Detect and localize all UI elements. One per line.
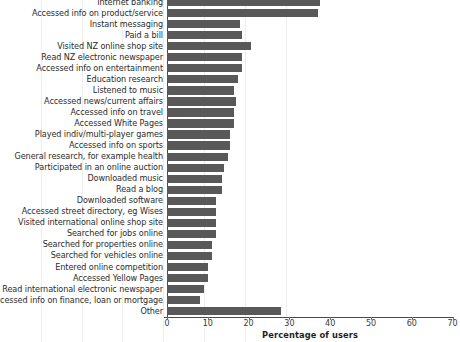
bar-row: Searched for jobs online <box>0 228 460 239</box>
bar-row: Accessed info on entertainment <box>0 63 460 74</box>
bar <box>167 197 216 205</box>
category-label: Accessed info on sports <box>69 140 163 151</box>
bar-row: Accessed info on sports <box>0 140 460 151</box>
bar <box>167 130 230 138</box>
bar <box>167 219 216 227</box>
bar-row: Accessed info on travel <box>0 107 460 118</box>
x-tick-mark-50 <box>371 317 372 320</box>
bar <box>167 296 200 304</box>
category-label: Accessed info on finance, loan or mortga… <box>0 295 163 306</box>
category-label: Downloaded music <box>87 173 163 184</box>
bar <box>167 0 320 6</box>
x-tick-label-20: 20 <box>244 319 254 328</box>
category-label: Accessed street directory, eg Wises <box>22 206 163 217</box>
bar-row: Accessed news/current affairs <box>0 96 460 107</box>
bar-row: Other <box>0 306 460 317</box>
category-label: Read a blog <box>116 184 163 195</box>
bar <box>167 241 212 249</box>
bar <box>167 263 208 271</box>
category-label: Visited NZ online shop site <box>57 41 163 52</box>
x-tick-label-50: 50 <box>366 319 376 328</box>
x-tick-mark-10 <box>208 317 209 320</box>
category-label: Listened to music <box>93 85 163 96</box>
bar <box>167 285 204 293</box>
bar-row: Accessed Yellow Pages <box>0 273 460 284</box>
bar-row: Instant messaging <box>0 19 460 30</box>
bar <box>167 9 318 17</box>
x-axis-title: Percentage of users <box>167 330 453 340</box>
category-label: Other <box>140 306 163 317</box>
category-label: Searched for vehicles online <box>51 250 163 261</box>
bar <box>167 20 240 28</box>
category-label: Played indiv/multi-player games <box>35 129 163 140</box>
bar <box>167 75 238 83</box>
bar-row: Visited international online shop site <box>0 217 460 228</box>
bar-chart: Internet bankingAccessed info on product… <box>0 0 460 342</box>
category-label: Accessed Yellow Pages <box>73 273 163 284</box>
category-label: Searched for properties online <box>43 239 163 250</box>
bar-row: Played indiv/multi-player games <box>0 129 460 140</box>
bar <box>167 108 234 116</box>
category-label: Accessed news/current affairs <box>44 96 163 107</box>
category-label: Education research <box>87 74 163 85</box>
bar-row: Internet banking <box>0 0 460 8</box>
bar <box>167 307 281 315</box>
bar-row: Paid a bill <box>0 30 460 41</box>
bar <box>167 252 212 260</box>
category-label: Accessed White Pages <box>74 118 163 129</box>
category-label: Entered online competition <box>55 262 163 273</box>
bar-row: Accessed info on finance, loan or mortga… <box>0 295 460 306</box>
bar <box>167 208 216 216</box>
x-tick-label-60: 60 <box>407 319 417 328</box>
bar-row: General research, for example health <box>0 151 460 162</box>
x-tick-mark-60 <box>412 317 413 320</box>
x-tick-mark-70 <box>453 317 454 320</box>
bar <box>167 175 222 183</box>
bar-row: Downloaded music <box>0 173 460 184</box>
category-label: Internet banking <box>97 0 163 8</box>
bar <box>167 53 242 61</box>
bar-row: Accessed street directory, eg Wises <box>0 206 460 217</box>
bar-row: Entered online competition <box>0 262 460 273</box>
bar-row: Downloaded software <box>0 195 460 206</box>
x-tick-label-30: 30 <box>284 319 294 328</box>
bar <box>167 42 251 50</box>
x-tick-mark-20 <box>249 317 250 320</box>
bar-row: Visited NZ online shop site <box>0 41 460 52</box>
bar-row: Searched for properties online <box>0 239 460 250</box>
category-label: Downloaded software <box>77 195 163 206</box>
category-label: Visited international online shop site <box>18 217 163 228</box>
bar-row: Listened to music <box>0 85 460 96</box>
x-tick-label-10: 10 <box>203 319 213 328</box>
bar <box>167 119 234 127</box>
x-tick-mark-30 <box>289 317 290 320</box>
bar-row: Read NZ electronic newspaper <box>0 52 460 63</box>
x-tick-label-40: 40 <box>325 319 335 328</box>
bar-row: Accessed White Pages <box>0 118 460 129</box>
category-label: Read international electronic newspaper <box>2 284 163 295</box>
bar-row: Education research <box>0 74 460 85</box>
bar-row: Read a blog <box>0 184 460 195</box>
bar-row: Participated in an online auction <box>0 162 460 173</box>
category-label: Participated in an online auction <box>35 162 163 173</box>
bar <box>167 186 222 194</box>
category-label: Accessed info on travel <box>71 107 163 118</box>
bar <box>167 274 208 282</box>
x-tick-label-70: 70 <box>448 319 458 328</box>
bar-row: Read international electronic newspaper <box>0 284 460 295</box>
category-label: Accessed info on entertainment <box>36 63 163 74</box>
x-tick-mark-0 <box>167 317 168 320</box>
category-label: Read NZ electronic newspaper <box>41 52 163 63</box>
bar <box>167 164 224 172</box>
bar <box>167 97 236 105</box>
bar-rows: Internet bankingAccessed info on product… <box>0 0 460 342</box>
category-label: General research, for example health <box>15 151 163 162</box>
bar <box>167 230 216 238</box>
bar <box>167 141 230 149</box>
category-label: Searched for jobs online <box>67 228 163 239</box>
bar-row: Accessed info on product/service <box>0 8 460 19</box>
bar <box>167 153 228 161</box>
bar <box>167 86 234 94</box>
x-tick-label-0: 0 <box>164 319 169 328</box>
x-axis-tick-labels: 010203040506070 <box>0 319 460 330</box>
